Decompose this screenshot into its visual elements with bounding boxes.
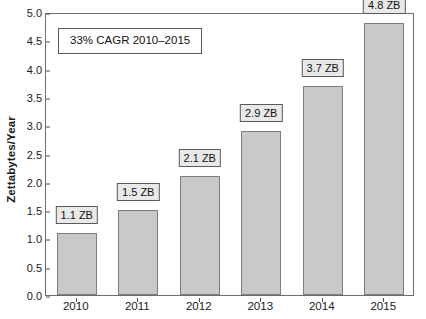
x-tick-label: 2012 [186, 300, 212, 313]
bar[interactable] [241, 131, 281, 295]
bar[interactable] [118, 210, 158, 295]
bar-chart-figure: Zettabytes/Year 0.00.51.01.52.02.53.03.5… [0, 0, 426, 319]
bar[interactable] [303, 86, 343, 295]
x-tick-label: 2014 [309, 300, 335, 313]
y-tick-label: 0.5 [12, 262, 42, 273]
cagr-annotation-text: 33% CAGR 2010–2015 [70, 34, 190, 46]
bar-slot: 3.7 ZB [292, 14, 354, 295]
x-tick-label: 2015 [370, 300, 396, 313]
x-tick-label: 2013 [247, 300, 273, 313]
y-tick-label: 4.5 [12, 36, 42, 47]
y-axis-ticklabels: 0.00.51.01.52.02.53.03.54.04.55.0 [12, 13, 42, 296]
y-tick-label: 1.5 [12, 206, 42, 217]
x-axis-ticklabels: 201020112012201320142015 [45, 298, 414, 318]
y-tick-label: 2.0 [12, 177, 42, 188]
bar-slot: 4.8 ZB [354, 14, 416, 295]
y-tick-label: 2.5 [12, 149, 42, 160]
bar-slot: 2.1 ZB [169, 14, 231, 295]
x-tick-label: 2010 [63, 300, 89, 313]
y-tick-label: 3.0 [12, 121, 42, 132]
y-tick-label: 1.0 [12, 234, 42, 245]
x-tick-label: 2011 [125, 300, 150, 313]
y-tick-label: 5.0 [12, 8, 42, 19]
bar[interactable] [364, 23, 404, 295]
bar-value-label: 3.7 ZB [302, 59, 344, 77]
bar[interactable] [180, 176, 220, 295]
bar-slot: 1.1 ZB [46, 14, 108, 295]
bar-value-label: 2.1 ZB [179, 149, 221, 167]
bar-value-label: 4.8 ZB [363, 0, 405, 14]
y-tick-label: 3.5 [12, 92, 42, 103]
y-tick-label: 0.0 [12, 291, 42, 302]
bar-value-label: 1.5 ZB [117, 183, 159, 201]
bar-value-label: 1.1 ZB [56, 206, 98, 224]
y-tick-label: 4.0 [12, 64, 42, 75]
bar[interactable] [57, 233, 97, 295]
plot-area: 1.1 ZB1.5 ZB2.1 ZB2.9 ZB3.7 ZB4.8 ZB 33%… [45, 13, 414, 296]
bar-slot: 1.5 ZB [108, 14, 170, 295]
plot-inner: 1.1 ZB1.5 ZB2.1 ZB2.9 ZB3.7 ZB4.8 ZB [46, 14, 413, 295]
cagr-annotation-box: 33% CAGR 2010–2015 [58, 28, 202, 54]
bar-value-label: 2.9 ZB [240, 104, 282, 122]
bar-slot: 2.9 ZB [231, 14, 293, 295]
